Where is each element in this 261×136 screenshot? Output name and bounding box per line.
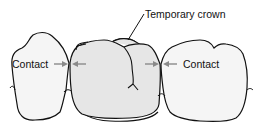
temporary-crown: [70, 39, 160, 122]
contact-label-left: Contact: [12, 59, 48, 70]
left-adjacent-tooth: [10, 33, 72, 121]
contact-label-right: Contact: [183, 59, 219, 70]
dental-diagram: Temporary crown Contact Contact: [0, 0, 261, 136]
temporary-crown-label: Temporary crown: [145, 9, 226, 20]
crown-leader-line: [128, 14, 144, 40]
right-adjacent-tooth: [158, 40, 253, 122]
